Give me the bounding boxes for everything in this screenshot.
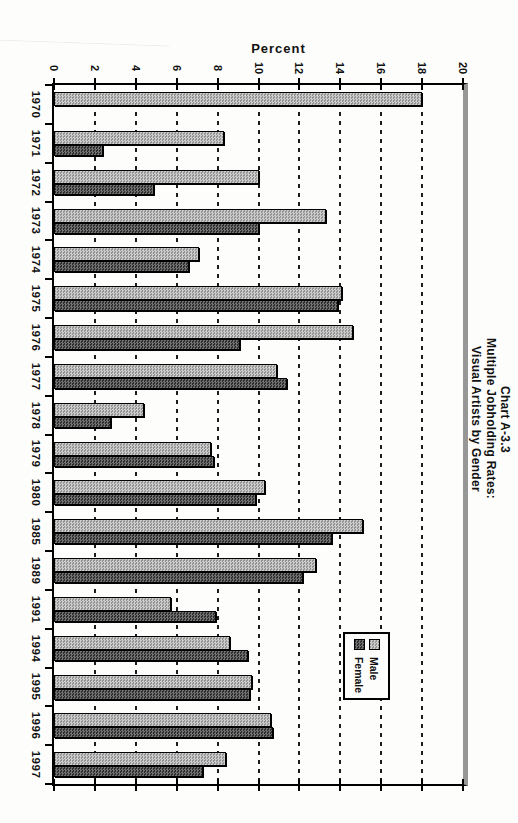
bar-male-1975 bbox=[54, 286, 342, 300]
year-tick-4 bbox=[45, 239, 54, 241]
bottom-tick-2 bbox=[94, 779, 96, 791]
bar-male-1979 bbox=[54, 442, 211, 456]
year-label-1972: 1972 bbox=[30, 162, 43, 202]
axis-title: Percent bbox=[74, 41, 483, 56]
year-tick-11 bbox=[45, 511, 54, 513]
year-label-1985: 1985 bbox=[30, 512, 43, 552]
year-tick-12 bbox=[45, 550, 54, 552]
gridline-12 bbox=[298, 85, 300, 784]
year-label-1997: 1997 bbox=[30, 745, 43, 785]
bar-female-1976 bbox=[54, 339, 240, 350]
bar-male-1972 bbox=[54, 170, 259, 184]
year-label-1971: 1971 bbox=[30, 123, 43, 163]
chart-title-line-1: Chart A-3.3 bbox=[498, 283, 513, 555]
bar-female-1972 bbox=[54, 184, 154, 195]
top-tick-14 bbox=[339, 78, 341, 90]
gridline-18 bbox=[421, 85, 423, 784]
bottom-tick-16 bbox=[380, 779, 382, 791]
bar-female-1980 bbox=[54, 494, 256, 505]
bar-female-1978 bbox=[54, 417, 111, 428]
year-label-1995: 1995 bbox=[30, 667, 43, 707]
male-swatch-icon bbox=[369, 639, 380, 650]
bar-male-1985 bbox=[54, 519, 363, 533]
bottom-tick-14 bbox=[339, 779, 341, 791]
year-tick-3 bbox=[45, 201, 54, 203]
legend-item-male: Male bbox=[368, 639, 380, 693]
bar-female-1991 bbox=[54, 611, 216, 622]
plot-area: Male Female bbox=[52, 83, 468, 786]
bar-male-1971 bbox=[54, 131, 224, 145]
legend: Male Female bbox=[343, 632, 390, 700]
bar-male-1977 bbox=[54, 364, 277, 378]
year-tick-1 bbox=[45, 123, 54, 125]
bottom-tick-0 bbox=[53, 779, 55, 791]
year-tick-7 bbox=[45, 356, 54, 358]
year-tick-2 bbox=[45, 162, 54, 164]
year-label-1980: 1980 bbox=[30, 473, 43, 513]
chart-title: Chart A-3.3 Multiple Jobholding Rates: V… bbox=[466, 283, 512, 555]
year-tick-8 bbox=[45, 395, 54, 397]
year-label-1977: 1977 bbox=[30, 356, 43, 396]
year-label-1975: 1975 bbox=[30, 279, 43, 319]
bar-female-1975 bbox=[54, 300, 338, 311]
bar-male-1991 bbox=[54, 597, 171, 611]
bottom-tick-8 bbox=[217, 779, 219, 791]
bar-female-1977 bbox=[54, 378, 287, 389]
year-label-1996: 1996 bbox=[30, 706, 43, 746]
top-tick-2 bbox=[94, 78, 96, 90]
year-label-1974: 1974 bbox=[30, 240, 43, 280]
top-tick-16 bbox=[380, 78, 382, 90]
legend-label-male: Male bbox=[368, 657, 380, 680]
year-tick-18 bbox=[45, 783, 54, 785]
bar-male-1980 bbox=[54, 480, 265, 494]
legend-item-female: Female bbox=[353, 639, 365, 693]
year-tick-9 bbox=[45, 434, 54, 436]
year-label-1976: 1976 bbox=[30, 317, 43, 357]
bar-female-1996 bbox=[54, 727, 273, 738]
chart-title-line-2: Multiple Jobholding Rates: bbox=[483, 283, 498, 555]
top-tick-12 bbox=[298, 78, 300, 90]
year-tick-6 bbox=[45, 317, 54, 319]
year-label-1979: 1979 bbox=[30, 434, 43, 474]
top-tick-10 bbox=[258, 78, 260, 90]
year-tick-15 bbox=[45, 667, 54, 669]
year-tick-0 bbox=[45, 84, 54, 86]
scanned-page: Percent 02468101214161820 Male Female 19… bbox=[0, 0, 518, 823]
bar-male-1995 bbox=[54, 675, 252, 689]
bottom-tick-6 bbox=[176, 779, 178, 791]
bar-male-1973 bbox=[54, 209, 326, 223]
bar-male-1978 bbox=[54, 403, 144, 417]
year-tick-13 bbox=[45, 589, 54, 591]
bar-female-1995 bbox=[54, 689, 250, 700]
top-tick-4 bbox=[135, 78, 137, 90]
bar-female-1989 bbox=[54, 572, 303, 583]
year-tick-16 bbox=[45, 705, 54, 707]
bar-male-1989 bbox=[54, 558, 316, 572]
bar-male-1970 bbox=[54, 92, 422, 106]
bar-female-1985 bbox=[54, 533, 332, 544]
bottom-tick-12 bbox=[298, 779, 300, 791]
year-label-1989: 1989 bbox=[30, 550, 43, 590]
bar-male-1974 bbox=[54, 247, 199, 261]
top-tick-20 bbox=[462, 78, 464, 90]
bar-male-1976 bbox=[54, 325, 353, 339]
year-label-1978: 1978 bbox=[30, 395, 43, 435]
bar-male-1997 bbox=[54, 752, 226, 766]
bottom-tick-4 bbox=[135, 779, 137, 791]
bar-male-1996 bbox=[54, 713, 271, 727]
year-label-1973: 1973 bbox=[30, 201, 43, 241]
bar-female-1979 bbox=[54, 456, 214, 467]
year-tick-10 bbox=[45, 472, 54, 474]
bar-female-1994 bbox=[54, 650, 248, 661]
chart-title-line-3: Visual Artists by Gender bbox=[469, 283, 484, 555]
female-swatch-icon bbox=[354, 639, 365, 650]
gridline-10 bbox=[258, 85, 260, 784]
year-label-1994: 1994 bbox=[30, 628, 43, 668]
gridline-14 bbox=[339, 85, 341, 784]
bar-female-1997 bbox=[54, 766, 203, 777]
top-tick-18 bbox=[421, 78, 423, 90]
bar-male-1994 bbox=[54, 636, 230, 650]
bar-female-1974 bbox=[54, 261, 189, 272]
bottom-tick-10 bbox=[258, 779, 260, 791]
year-tick-17 bbox=[45, 744, 54, 746]
